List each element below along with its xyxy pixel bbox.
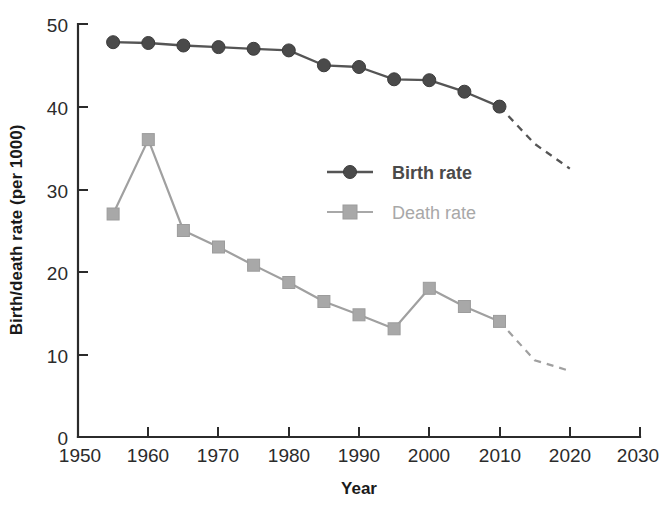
data-point-marker (177, 39, 190, 52)
series-layer (107, 36, 570, 371)
legend-item-birth-rate[interactable]: Birth rate (327, 163, 472, 183)
data-point-marker (423, 282, 435, 294)
y-tick-label-20: 20 (47, 263, 68, 284)
x-tick-label-2000: 2000 (408, 445, 450, 466)
data-point-marker (458, 301, 470, 313)
x-tick-label-1980: 1980 (268, 445, 310, 466)
series-line (113, 42, 499, 106)
legend-item-death-rate[interactable]: Death rate (327, 203, 476, 223)
data-point-marker (282, 44, 295, 57)
x-tick-label-1960: 1960 (127, 445, 169, 466)
data-point-marker (353, 61, 366, 74)
data-point-marker (142, 134, 154, 146)
x-tick-label-1950: 1950 (59, 445, 101, 466)
x-tick-label-1970: 1970 (197, 445, 239, 466)
line-chart: 50 40 30 20 10 0 1950 1960 1970 1980 199… (0, 0, 664, 505)
data-point-marker (177, 225, 189, 237)
y-axis-ticks (78, 24, 88, 437)
data-point-marker (247, 42, 260, 55)
x-axis-ticks (78, 427, 640, 437)
square-marker-icon (343, 205, 357, 219)
data-point-marker (283, 277, 295, 289)
data-point-marker (317, 59, 330, 72)
data-point-marker (107, 36, 120, 49)
chart-page: 50 40 30 20 10 0 1950 1960 1970 1980 199… (0, 0, 664, 505)
y-axis-title: Birth/death rate (per 1000) (7, 125, 26, 336)
circle-marker-icon (344, 166, 357, 179)
data-point-marker (353, 309, 365, 321)
data-point-marker (423, 74, 436, 87)
data-point-marker (248, 259, 260, 271)
x-tick-label-2020: 2020 (549, 445, 591, 466)
data-point-marker (142, 37, 155, 50)
series-projection-line (500, 107, 570, 169)
data-point-marker (107, 208, 119, 220)
data-point-marker (213, 241, 225, 253)
series-projection-line (500, 321, 570, 371)
data-point-marker (494, 315, 506, 327)
series-birth-rate (107, 36, 570, 169)
x-tick-label-2010: 2010 (479, 445, 521, 466)
x-tick-label-1990: 1990 (338, 445, 380, 466)
y-tick-label-50: 50 (47, 15, 68, 36)
legend: Birth rate Death rate (327, 163, 476, 223)
y-tick-label-10: 10 (47, 346, 68, 367)
y-tick-label-40: 40 (47, 98, 68, 119)
data-point-marker (212, 41, 225, 54)
data-point-marker (388, 73, 401, 86)
x-axis-title: Year (341, 479, 377, 498)
y-tick-label-30: 30 (47, 181, 68, 202)
data-point-marker (388, 323, 400, 335)
data-point-marker (458, 85, 471, 98)
legend-label-death-rate: Death rate (392, 203, 476, 223)
data-point-marker (493, 100, 506, 113)
x-tick-label-2030: 2030 (617, 445, 659, 466)
data-point-marker (318, 296, 330, 308)
legend-label-birth-rate: Birth rate (392, 163, 472, 183)
series-death-rate (107, 134, 570, 371)
